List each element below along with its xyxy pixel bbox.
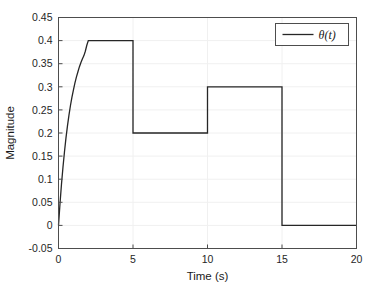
y-tick-label-4: 0.15 <box>32 150 53 162</box>
y-tick-label-3: 0.1 <box>38 173 53 185</box>
y-tick-label-5: 0.2 <box>38 127 53 139</box>
y-tick-label-7: 0.3 <box>38 81 53 93</box>
y-tick-label-9: 0.4 <box>38 34 53 46</box>
legend-label-0: θ(t) <box>319 28 336 42</box>
y-tick-label-0: -0.05 <box>29 242 53 254</box>
x-axis-title: Time (s) <box>187 270 229 282</box>
chart-figure: -0.0500.050.10.150.20.250.30.350.40.4505… <box>0 0 376 297</box>
y-tick-label-2: 0.05 <box>32 196 53 208</box>
x-tick-label-0: 0 <box>56 253 62 265</box>
y-tick-label-1: 0 <box>47 219 53 231</box>
x-tick-label-3: 15 <box>276 253 288 265</box>
y-tick-label-10: 0.45 <box>32 11 53 23</box>
x-tick-label-4: 20 <box>351 253 363 265</box>
chart-canvas: -0.0500.050.10.150.20.250.30.350.40.4505… <box>0 0 376 297</box>
y-axis-title: Magnitude <box>4 106 16 160</box>
x-tick-label-1: 5 <box>130 253 136 265</box>
x-tick-label-2: 10 <box>202 253 214 265</box>
y-tick-label-6: 0.25 <box>32 104 53 116</box>
y-tick-label-8: 0.35 <box>32 57 53 69</box>
